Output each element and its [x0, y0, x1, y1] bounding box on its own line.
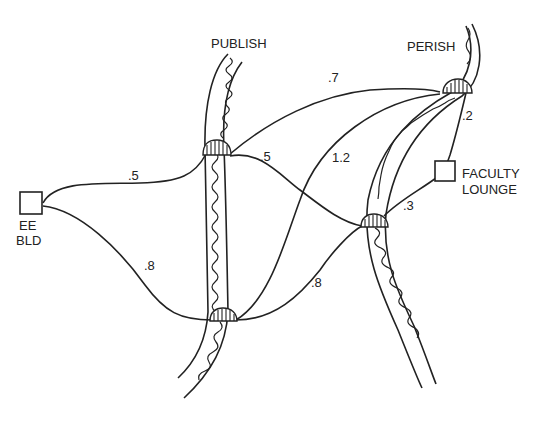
ee-bld-box — [20, 192, 42, 214]
perish-river — [367, 24, 480, 388]
ee-bld-label-line2: BLD — [16, 233, 41, 248]
edge-weight-publish-upper-perish-lower: .5 — [260, 149, 271, 164]
faculty-lounge-label-line2: LOUNGE — [462, 182, 517, 197]
edge-weight-perish-lower-faculty: .3 — [403, 198, 414, 213]
ee-bld-label-line1: EE — [19, 218, 37, 233]
bridge-perish-upper — [443, 79, 472, 93]
edge-weight-ee-publish-upper: .5 — [128, 168, 139, 183]
edge-weight-publish-lower-perish-upper: 1.2 — [332, 150, 350, 165]
edge-weight-publish-upper-perish-upper: .7 — [328, 70, 339, 85]
perish-river-label: PERISH — [407, 39, 455, 54]
faculty-lounge-box — [435, 161, 455, 181]
edge-weight-ee-publish-lower: .8 — [144, 258, 155, 273]
edge-publish-lower-perish-lower — [236, 226, 362, 320]
publish-river-label: PUBLISH — [211, 36, 267, 51]
edge-ee-publish-upper — [43, 154, 206, 203]
edge-weight-perish-upper-faculty: .2 — [462, 108, 473, 123]
edge-publish-upper-perish-lower — [230, 155, 362, 226]
faculty-lounge-label-line1: FACULTY — [462, 166, 520, 181]
bridge-publish-upper — [203, 140, 231, 155]
edge-weight-publish-lower-perish-lower: .8 — [311, 275, 322, 290]
route-diagram: PUBLISH PERISH EE BLD FACULTY LOUNGE .5 … — [0, 0, 554, 421]
publish-river — [178, 54, 242, 398]
edge-ee-publish-lower — [43, 206, 212, 320]
